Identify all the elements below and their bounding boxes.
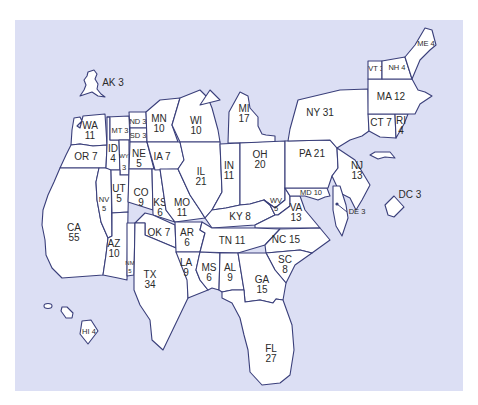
label-me: ME 4	[417, 39, 435, 48]
label-wv-value: 5	[274, 204, 278, 213]
state-ct[interactable]: CT 7	[368, 114, 396, 138]
label-mn-value: 10	[153, 123, 165, 134]
label-nh: NH 4	[388, 63, 405, 72]
label-mo-value: 11	[177, 207, 188, 218]
label-wy-abbr: WY	[119, 153, 129, 159]
state-wa[interactable]: WA 11	[71, 114, 107, 146]
state-ak[interactable]: AK 3	[80, 70, 124, 97]
label-az-value: 10	[108, 248, 120, 259]
label-tx-value: 34	[144, 279, 156, 290]
state-or[interactable]: OR 7	[60, 144, 107, 168]
state-sd[interactable]: SD 3	[130, 128, 147, 142]
label-wy-value: 3	[122, 163, 126, 172]
label-il-value: 21	[195, 176, 207, 187]
label-la-value: 9	[183, 267, 189, 278]
state-hi[interactable]: HI 4	[44, 304, 98, 345]
label-nv-value: 5	[102, 204, 106, 213]
label-ri-value: 4	[398, 125, 404, 136]
hi-island-medium	[61, 307, 73, 318]
label-va-value: 13	[290, 212, 302, 223]
label-ny: NY 31	[306, 107, 334, 118]
label-pa: PA 21	[299, 148, 325, 159]
label-ca-value: 55	[68, 232, 80, 243]
label-ms-value: 6	[206, 272, 212, 283]
state-ut[interactable]: UT 5	[111, 170, 129, 213]
label-nv-abbr: NV	[99, 195, 109, 204]
label-ct: CT 7	[370, 117, 392, 128]
label-ut-value: 5	[116, 193, 122, 204]
label-ak: AK 3	[102, 77, 124, 88]
label-md: MD 10	[300, 188, 322, 197]
label-ne-value: 5	[136, 158, 142, 169]
label-ga-value: 15	[256, 284, 268, 295]
label-nc: NC 15	[272, 234, 301, 245]
label-mi-value: 17	[238, 113, 250, 124]
label-ky: KY 8	[229, 211, 251, 222]
label-al-value: 9	[227, 272, 233, 283]
state-mi[interactable]: MI 17	[228, 92, 275, 143]
state-pa[interactable]: PA 21	[285, 140, 338, 188]
label-fl-value: 27	[265, 353, 277, 364]
state-me[interactable]: ME 4	[405, 28, 436, 79]
hi-island-small	[44, 304, 52, 309]
label-nd: ND 3	[129, 117, 146, 126]
label-de: DE 3	[349, 207, 366, 216]
label-sc-value: 8	[282, 264, 288, 275]
state-nd[interactable]: ND 3	[129, 112, 147, 128]
state-ri[interactable]: RI 4	[395, 114, 408, 138]
label-nm-abbr: NM	[125, 260, 134, 266]
state-wy[interactable]: WY 3	[119, 140, 129, 175]
label-wi-value: 10	[190, 125, 202, 136]
label-ks-value: 6	[157, 207, 163, 218]
state-nm[interactable]: NM 5	[125, 223, 135, 276]
label-wa-value: 11	[85, 130, 96, 141]
label-sd: SD 3	[130, 131, 147, 140]
state-mt[interactable]: MT 3	[107, 116, 130, 140]
label-ok: OK 7	[148, 227, 171, 238]
label-in-value: 11	[224, 170, 235, 181]
label-nj-value: 13	[351, 170, 363, 181]
label-co-value: 9	[138, 197, 144, 208]
state-co[interactable]: CO 9	[128, 169, 153, 210]
label-hi: HI 4	[82, 327, 96, 336]
label-dc: DC 3	[399, 189, 422, 200]
label-tn: TN 11	[219, 235, 246, 246]
long-island	[370, 152, 395, 159]
label-ia: IA 7	[153, 151, 171, 162]
label-id-value: 4	[110, 153, 116, 164]
label-oh-value: 20	[254, 159, 266, 170]
state-dc[interactable]: DC 3	[385, 189, 422, 217]
label-or: OR 7	[74, 151, 98, 162]
label-ma: MA 12	[377, 91, 406, 102]
label-ar-value: 6	[184, 237, 190, 248]
state-fl[interactable]: FL 27	[222, 290, 294, 385]
state-ma[interactable]: MA 12	[368, 79, 432, 114]
label-mt: MT 3	[112, 126, 129, 135]
electoral-votes-map: AK 3 WA 11 OR 7 CA 55 NV 5 ID 4 MT 3 WY …	[0, 0, 478, 405]
